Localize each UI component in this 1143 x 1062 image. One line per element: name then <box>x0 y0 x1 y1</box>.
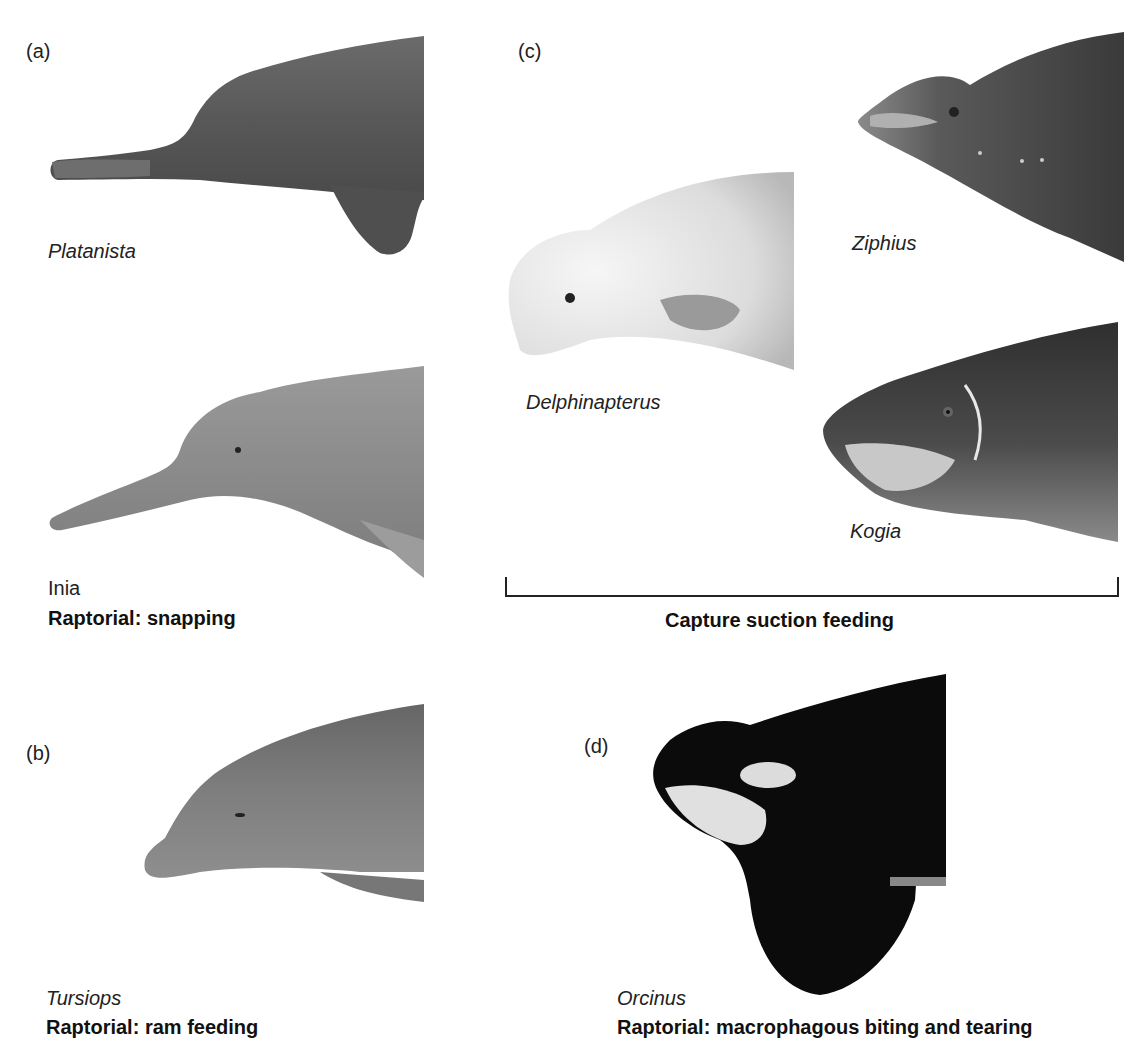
caption-b: Raptorial: ram feeding <box>46 1016 258 1039</box>
genus-platanista: Platanista <box>48 240 136 263</box>
kogia-illustration <box>815 320 1125 550</box>
genus-delphinapterus: Delphinapterus <box>526 391 661 414</box>
genus-inia: Inia <box>48 577 80 600</box>
genus-kogia: Kogia <box>850 520 901 543</box>
capture-suction-bracket <box>505 577 1119 597</box>
caption-a: Raptorial: snapping <box>48 607 236 630</box>
caption-c: Capture suction feeding <box>665 609 894 632</box>
orcinus-illustration <box>640 670 950 1000</box>
platanista-illustration <box>0 0 430 270</box>
tursiops-illustration <box>0 660 430 910</box>
panel-label-d: (d) <box>584 735 608 758</box>
panel-label-c: (c) <box>518 40 541 63</box>
genus-tursiops: Tursiops <box>46 987 121 1010</box>
genus-orcinus: Orcinus <box>617 987 686 1010</box>
inia-illustration <box>0 340 430 590</box>
caption-d: Raptorial: macrophagous biting and teari… <box>617 1016 1033 1039</box>
genus-ziphius: Ziphius <box>852 232 916 255</box>
delphinapterus-illustration <box>500 170 800 370</box>
